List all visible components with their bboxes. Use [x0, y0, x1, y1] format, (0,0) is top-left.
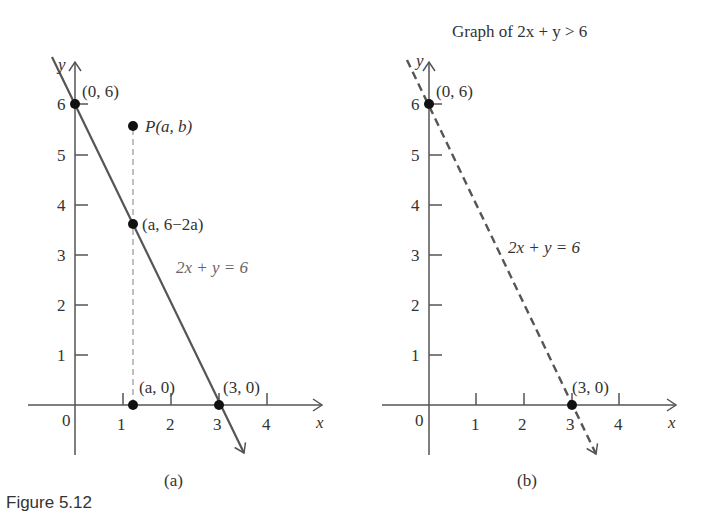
line-label: 2x + y = 6	[176, 258, 249, 277]
y-tick-label: 6	[57, 95, 66, 114]
panel-caption: (b)	[517, 471, 537, 490]
y-tick-label: 5	[57, 146, 66, 165]
point-label-0-6: (0, 6)	[436, 82, 473, 101]
panel-a: y x 0 1 2 3 4 1 2 3 4 5 6 (0, 6) P(a, b)…	[28, 55, 324, 490]
y-tick-label: 2	[57, 296, 66, 315]
y-tick-label: 1	[411, 346, 420, 365]
point-3-0	[567, 400, 577, 410]
line-label: 2x + y = 6	[508, 238, 581, 257]
y-tick-label: 3	[57, 246, 66, 265]
panel-b: y x 0 1 2 3 4 1 2 3 4 5 6 (0, 6) (3, 0) …	[382, 51, 676, 490]
x-tick-label: 2	[518, 415, 527, 434]
point-label-0-6: (0, 6)	[82, 82, 119, 101]
y-ticks	[429, 104, 442, 355]
point-0-6	[424, 99, 434, 109]
point-label-on-line: (a, 6−2a)	[142, 215, 204, 234]
y-axis-label: y	[414, 51, 424, 70]
panel-caption: (a)	[164, 471, 183, 490]
boundary-line-dashed	[407, 60, 596, 454]
y-tick-label: 2	[411, 296, 420, 315]
point-label-3-0: (3, 0)	[223, 378, 260, 397]
y-axis-label: y	[56, 55, 66, 74]
x-tick-label: 3	[213, 415, 222, 434]
x-tick-label: 4	[262, 415, 271, 434]
origin-label: 0	[62, 411, 71, 430]
y-tick-label: 3	[411, 246, 420, 265]
x-tick-label: 1	[117, 415, 126, 434]
x-tick-label: 2	[166, 415, 175, 434]
figure-canvas: y x 0 1 2 3 4 1 2 3 4 5 6 (0, 6) P(a, b)…	[0, 0, 707, 524]
origin-label: 0	[415, 411, 424, 430]
point-0-6	[70, 99, 80, 109]
point-on-line	[128, 219, 138, 229]
point-label-3-0: (3, 0)	[572, 378, 609, 397]
panel-b-title: Graph of 2x + y > 6	[452, 22, 587, 42]
y-tick-label: 4	[411, 196, 420, 215]
x-axis-label: x	[315, 413, 324, 432]
x-tick-label: 1	[471, 415, 480, 434]
y-ticks	[75, 104, 88, 355]
y-tick-label: 5	[411, 146, 420, 165]
y-tick-label: 4	[57, 196, 66, 215]
figure-label: Figure 5.12	[6, 493, 92, 513]
point-label-P: P(a, b)	[144, 117, 193, 136]
x-tick-label: 3	[566, 415, 575, 434]
point-P	[128, 121, 138, 131]
point-label-a-0: (a, 0)	[139, 378, 175, 397]
point-3-0	[214, 400, 224, 410]
point-a-0	[128, 400, 138, 410]
y-tick-label: 6	[411, 95, 420, 114]
y-tick-label: 1	[57, 346, 66, 365]
x-tick-label: 4	[614, 415, 623, 434]
x-axis-label: x	[667, 413, 676, 432]
